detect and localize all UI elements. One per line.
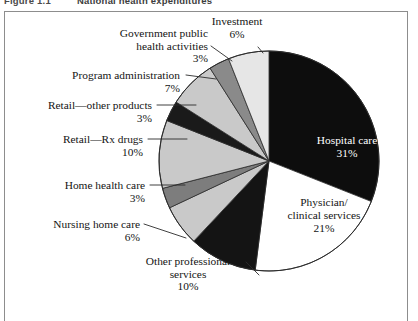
callout-value: 3% (31, 192, 145, 205)
callout-value: 6% (24, 231, 140, 244)
callout-label: Retail—other products (14, 99, 152, 112)
callout-value: 10% (130, 280, 246, 293)
pie-wedges (159, 51, 379, 271)
slice-label-text2: clinical services (287, 209, 360, 221)
callout-label2: services (130, 268, 246, 281)
slice-label-text: Physician/ (300, 196, 347, 208)
callout-home-health-care: Home health care 3% (31, 179, 145, 204)
callout-retail-rx-drugs: Retail—Rx drugs 10% (35, 133, 143, 158)
leader-line-nursing-home-care (144, 224, 186, 238)
callout-label: Other professional (130, 255, 246, 268)
callout-government-public-health: Government public health activities 3% (76, 27, 208, 65)
slice-label-physician-clinical: Physician/ clinical services 21% (268, 196, 380, 236)
callout-value: 3% (76, 52, 208, 65)
callout-value: 7% (28, 82, 180, 95)
slice-label-value: 31% (337, 147, 358, 159)
callout-nursing-home-care: Nursing home care 6% (24, 218, 140, 243)
callout-value: 3% (14, 112, 152, 125)
callout-label: Nursing home care (24, 218, 140, 231)
callout-label: Investment (191, 15, 283, 28)
callout-label2: health activities (76, 40, 208, 53)
callout-label: Home health care (31, 179, 145, 192)
slice-label-text: Hospital care (317, 134, 377, 146)
callout-label: Program administration (28, 69, 180, 82)
slice-label-value: 21% (314, 222, 335, 234)
callout-label: Government public (76, 27, 208, 40)
slice-label-hospital-care: Hospital care 31% (295, 134, 399, 160)
leader-line-government-public-health (211, 46, 232, 61)
callout-program-administration: Program administration 7% (28, 69, 180, 94)
callout-label: Retail—Rx drugs (35, 133, 143, 146)
callout-value: 10% (35, 146, 143, 159)
callout-retail-other-products: Retail—other products 3% (14, 99, 152, 124)
callout-other-professional-services: Other professional services 10% (130, 255, 246, 293)
